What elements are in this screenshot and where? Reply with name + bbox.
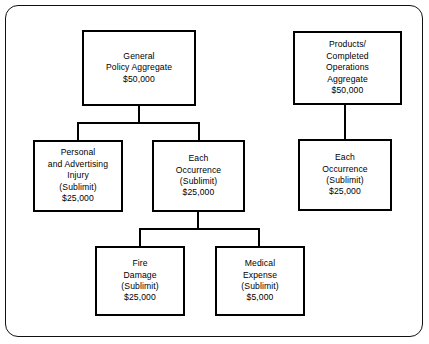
connector-general-stem — [138, 106, 140, 123]
fire-damage-line: Damage — [123, 270, 156, 281]
products-completed-operations-aggregate-line: Aggregate — [327, 74, 368, 85]
medical-expense-box: MedicalExpense(Sublimit)$5,000 — [215, 246, 305, 316]
general-policy-aggregate-line: Policy Aggregate — [106, 62, 172, 73]
fire-damage-line: (Sublimit) — [121, 281, 158, 292]
medical-expense-line: (Sublimit) — [241, 281, 278, 292]
connector-products-to-each — [344, 105, 346, 140]
each-occurrence-general-line: $25,000 — [183, 187, 215, 198]
personal-and-advertising-injury-box: Personaland AdvertisingInjury(Sublimit)$… — [33, 140, 123, 212]
connector-general-to-each — [198, 122, 200, 140]
connector-general-to-personal — [77, 122, 79, 140]
personal-and-advertising-injury-line: and Advertising — [48, 159, 108, 170]
general-policy-aggregate-box: GeneralPolicy Aggregate$50,000 — [82, 30, 196, 106]
fire-damage-line: $25,000 — [124, 292, 156, 303]
connector-each-to-fire — [139, 228, 141, 246]
products-completed-operations-aggregate-line: Operations — [326, 62, 369, 73]
connector-each-bar — [139, 228, 260, 230]
products-completed-operations-aggregate-line: Products/ — [329, 39, 366, 50]
personal-and-advertising-injury-line: (Sublimit) — [59, 182, 96, 193]
medical-expense-line: Expense — [243, 270, 277, 281]
products-completed-operations-aggregate-line: Completed — [326, 51, 368, 62]
medical-expense-line: Medical — [245, 258, 275, 269]
fire-damage-line: Fire — [132, 258, 147, 269]
products-completed-operations-aggregate-box: Products/CompletedOperationsAggregate$50… — [293, 31, 402, 105]
each-occurrence-products-box: EachOccurrence(Sublimit)$25,000 — [298, 139, 392, 211]
general-policy-aggregate-line: General — [123, 51, 154, 62]
each-occurrence-products-line: Each — [335, 152, 355, 163]
each-occurrence-products-line: Occurrence — [322, 164, 367, 175]
fire-damage-box: FireDamage(Sublimit)$25,000 — [95, 246, 185, 316]
connector-each-to-medical — [258, 228, 260, 246]
medical-expense-line: $5,000 — [247, 292, 274, 303]
personal-and-advertising-injury-line: Injury — [67, 170, 89, 181]
general-policy-aggregate-line: $50,000 — [123, 74, 155, 85]
each-occurrence-products-line: $25,000 — [329, 186, 361, 197]
each-occurrence-general-line: Occurrence — [176, 165, 221, 176]
each-occurrence-general-line: Each — [189, 153, 209, 164]
each-occurrence-general-box: EachOccurrence(Sublimit)$25,000 — [152, 140, 245, 212]
each-occurrence-general-line: (Sublimit) — [180, 176, 217, 187]
personal-and-advertising-injury-line: $25,000 — [62, 193, 94, 204]
products-completed-operations-aggregate-line: $50,000 — [332, 85, 364, 96]
diagram-canvas: GeneralPolicy Aggregate$50,000Products/C… — [0, 0, 429, 344]
connector-general-bar — [77, 122, 200, 124]
each-occurrence-products-line: (Sublimit) — [326, 175, 363, 186]
personal-and-advertising-injury-line: Personal — [61, 147, 96, 158]
